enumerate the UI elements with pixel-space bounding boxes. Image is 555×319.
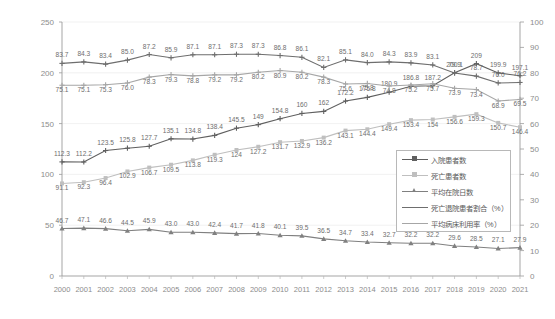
data-label: 32.2 <box>405 231 418 238</box>
data-point-marker <box>474 74 479 79</box>
legend-item-1[interactable]: 入院患者数 <box>397 151 510 167</box>
x-axis-tick: 2007 <box>206 285 223 294</box>
legend-item-3[interactable]: 平均在院日数 <box>397 183 510 199</box>
series-line <box>62 54 520 83</box>
data-label: 96.4 <box>99 179 112 186</box>
legend-item-5[interactable]: 平均病床利用率（%） <box>397 215 510 231</box>
data-label: 112.2 <box>76 150 92 157</box>
legend-item-2[interactable]: 死亡患者数 <box>397 167 510 183</box>
data-point-marker <box>277 116 282 121</box>
y-axis-tick: 250 <box>41 18 55 27</box>
data-label: 82.1 <box>317 55 330 62</box>
data-label: 199.9 <box>490 61 507 68</box>
data-label: 76.2 <box>514 70 527 77</box>
data-label: 75.3 <box>99 86 112 93</box>
x-axis-tick: 2014 <box>359 285 376 294</box>
data-label: 102.9 <box>119 172 136 179</box>
data-label: 162 <box>318 99 329 106</box>
data-label: 135.1 <box>163 127 180 134</box>
x-axis-tick: 2000 <box>54 285 71 294</box>
y-axis-tick: 150 <box>41 120 55 129</box>
data-label: 79.9 <box>448 61 461 68</box>
data-label: 69.5 <box>514 100 527 107</box>
data-label: 78.3 <box>143 78 156 85</box>
y2-axis-tick: 60 <box>530 120 539 129</box>
data-label: 76.0 <box>121 84 134 91</box>
data-label: 75.8 <box>361 84 374 91</box>
x-axis-tick: 2016 <box>403 285 420 294</box>
series-4: 83.784.383.485.087.285.987.187.187.387.3… <box>56 42 527 85</box>
legend-marker-icon <box>402 154 428 164</box>
data-label: 87.2 <box>143 43 156 50</box>
data-label: 143.1 <box>337 132 354 139</box>
legend-item-4[interactable]: 死亡退院患者割合（%） <box>397 199 510 215</box>
data-point-marker <box>321 109 326 114</box>
data-label: 80.2 <box>252 73 265 80</box>
data-label: 134.8 <box>185 127 202 134</box>
data-point-marker <box>103 62 108 67</box>
data-label: 45.9 <box>143 217 156 224</box>
data-label: 149 <box>253 113 264 120</box>
data-label: 91.1 <box>56 184 69 191</box>
data-label: 73.9 <box>448 89 461 96</box>
data-point-marker <box>299 55 304 60</box>
data-label: 78.7 <box>470 64 483 71</box>
data-label: 36.5 <box>317 227 330 234</box>
x-axis-tick: 2018 <box>446 285 463 294</box>
data-label: 87.1 <box>186 43 199 50</box>
data-point-marker <box>408 60 413 65</box>
chart-legend: 入院患者数死亡患者数平均在院日数死亡退院患者割合（%）平均病床利用率（%） <box>396 150 511 232</box>
data-label: 85.1 <box>339 48 352 55</box>
x-axis-tick: 2020 <box>490 285 507 294</box>
legend-label: 入院患者数 <box>428 154 466 165</box>
data-label: 92.3 <box>77 183 90 190</box>
data-point-marker <box>299 111 304 116</box>
data-point-marker <box>365 60 370 65</box>
data-label: 68.9 <box>492 102 505 109</box>
x-axis-tick: 2012 <box>315 285 332 294</box>
data-label: 87.3 <box>230 42 243 49</box>
data-label: 27.9 <box>514 236 527 243</box>
y2-axis-tick: 50 <box>530 145 539 154</box>
data-label: 32.7 <box>383 231 396 238</box>
data-label: 41.7 <box>230 222 243 229</box>
data-point-marker <box>81 159 86 164</box>
data-point-marker <box>147 144 152 149</box>
data-label: 39.5 <box>295 224 308 231</box>
data-label: 46.7 <box>56 217 69 224</box>
series-line <box>62 64 520 162</box>
data-label: 75.1 <box>56 86 69 93</box>
y2-axis-tick: 30 <box>530 196 539 205</box>
data-label: 187.2 <box>425 74 442 81</box>
legend-marker-icon <box>402 186 428 196</box>
data-point-marker <box>496 80 501 85</box>
data-label: 73.4 <box>470 91 483 98</box>
data-label: 124 <box>231 151 242 158</box>
y2-axis-tick: 90 <box>530 43 539 52</box>
x-axis-tick: 2001 <box>75 285 92 294</box>
data-label: 132.9 <box>294 142 311 149</box>
x-axis-tick: 2006 <box>185 285 202 294</box>
data-label: 85.9 <box>165 46 178 53</box>
series-1: 112.3112.2123.5125.8127.7135.1134.8138.4… <box>54 52 529 165</box>
y2-axis-tick: 80 <box>530 69 539 78</box>
data-label: 83.4 <box>99 52 112 59</box>
data-label: 127.2 <box>250 148 267 155</box>
data-label: 154.8 <box>272 107 289 114</box>
data-point-marker <box>234 126 239 131</box>
y2-axis-tick: 10 <box>530 247 539 256</box>
data-point-marker <box>125 58 130 63</box>
data-label: 41.8 <box>252 222 265 229</box>
data-point-marker <box>190 136 195 141</box>
y2-axis-tick: 40 <box>530 170 539 179</box>
data-label: 87.1 <box>208 43 221 50</box>
data-label: 47.1 <box>77 216 90 223</box>
data-label: 79.2 <box>230 76 243 83</box>
data-label: 74.8 <box>383 87 396 94</box>
data-label: 78.3 <box>317 78 330 85</box>
data-label: 83.7 <box>56 51 69 58</box>
data-point-marker <box>256 52 261 57</box>
data-label: 83.9 <box>405 51 418 58</box>
data-point-marker <box>234 52 239 57</box>
y2-axis-tick: 20 <box>530 221 539 230</box>
